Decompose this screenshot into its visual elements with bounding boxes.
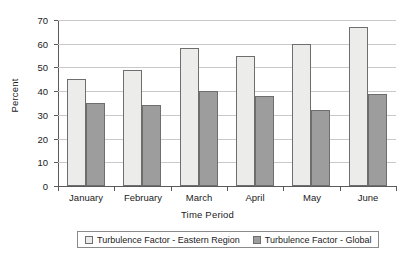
legend-label: Turbulence Factor - Global	[265, 235, 372, 245]
y-tick-label: 40	[22, 86, 48, 97]
x-tick-mark	[114, 186, 115, 191]
x-tick-label: April	[245, 192, 264, 203]
legend-entry: Turbulence Factor - Eastern Region	[85, 235, 240, 245]
bar-group	[58, 20, 114, 186]
x-tick-label: March	[186, 192, 212, 203]
legend-swatch-icon	[253, 236, 261, 244]
bar-group	[283, 20, 339, 186]
bar	[67, 79, 86, 186]
bar	[199, 91, 218, 186]
bar	[292, 44, 311, 186]
x-tick-label: February	[124, 192, 162, 203]
bar-chart: Percent 010203040506070 JanuaryFebruaryM…	[0, 0, 415, 263]
bar	[311, 110, 330, 186]
y-tick-label: 0	[22, 181, 48, 192]
legend: Turbulence Factor - Eastern RegionTurbul…	[77, 231, 379, 248]
y-axis-title: Percent	[6, 0, 22, 190]
legend-swatch-icon	[85, 236, 93, 244]
y-tick-label: 60	[22, 39, 48, 50]
bars-layer	[58, 20, 396, 186]
bar	[368, 94, 387, 186]
y-tick-label: 10	[22, 157, 48, 168]
y-axis-title-label: Percent	[9, 78, 20, 112]
x-tick-mark	[58, 186, 59, 191]
bar-group	[171, 20, 227, 186]
x-tick-label: June	[358, 192, 379, 203]
x-tick-mark	[340, 186, 341, 191]
x-tick-mark	[283, 186, 284, 191]
x-axis-title-label: Time Period	[181, 209, 234, 220]
y-tick-label: 70	[22, 15, 48, 26]
legend-entry: Turbulence Factor - Global	[253, 235, 372, 245]
y-tick-label: 20	[22, 134, 48, 145]
bar-group	[340, 20, 396, 186]
y-tick-label: 50	[22, 62, 48, 73]
x-axis-title: Time Period	[0, 209, 415, 220]
bar	[86, 103, 105, 186]
bar-group	[227, 20, 283, 186]
x-tick-label: May	[303, 192, 321, 203]
y-tick-label: 30	[22, 110, 48, 121]
x-tick-mark	[396, 186, 397, 191]
bar	[123, 70, 142, 186]
bar	[349, 27, 368, 186]
bar	[180, 48, 199, 186]
legend-label: Turbulence Factor - Eastern Region	[97, 235, 240, 245]
x-tick-mark	[227, 186, 228, 191]
bar	[255, 96, 274, 186]
bar-group	[114, 20, 170, 186]
bar	[236, 56, 255, 186]
x-tick-label: January	[69, 192, 103, 203]
bar	[142, 105, 161, 186]
x-tick-mark	[171, 186, 172, 191]
